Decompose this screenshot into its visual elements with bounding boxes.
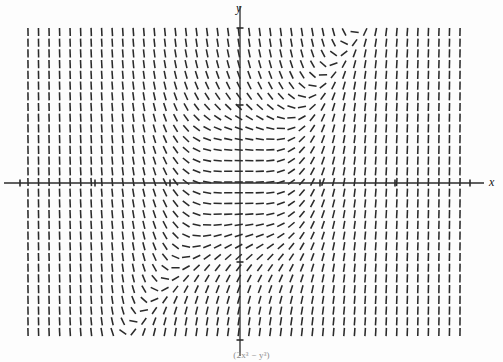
axes-group — [4, 6, 484, 356]
slope-field-figure: y x (2x³ − y³) — [0, 0, 503, 362]
y-axis-label: y — [236, 2, 241, 14]
slope-field-canvas — [0, 0, 503, 362]
x-axis-label: x — [489, 176, 494, 188]
figure-caption: (2x³ − y³) — [0, 350, 503, 362]
